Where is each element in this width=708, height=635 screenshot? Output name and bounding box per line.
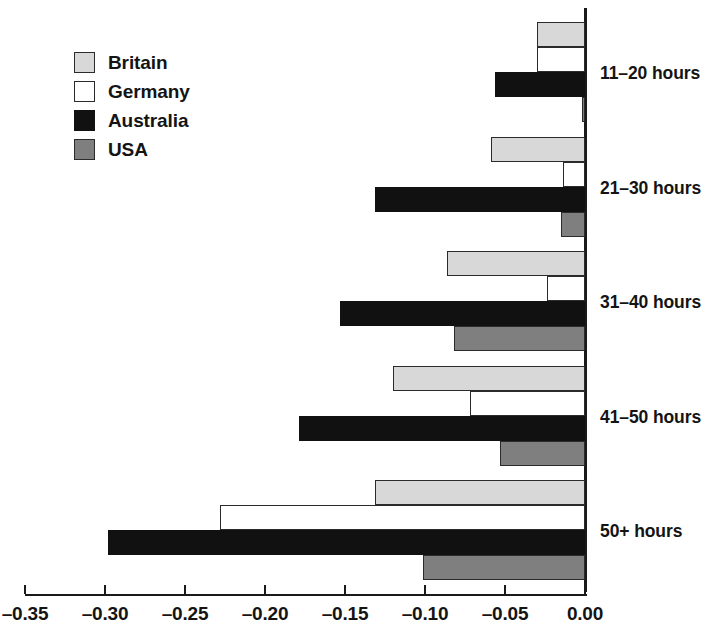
category-label-5: 50+ hours: [600, 521, 682, 542]
category-label-1: 11–20 hours: [600, 63, 700, 84]
bar-germany-1: [537, 47, 585, 72]
bar-australia-2: [375, 187, 585, 212]
x-tick-label-0: –0.35: [2, 603, 49, 625]
x-tick-label-6: –0.05: [482, 603, 529, 625]
bar-usa-5: [423, 555, 585, 580]
legend-swatch-australia-icon: [74, 110, 95, 131]
x-tick-label-1: –0.30: [82, 603, 129, 625]
bar-usa-4: [500, 441, 585, 466]
x-axis-line: [25, 594, 587, 596]
x-tick-4: [344, 585, 346, 594]
category-label-4: 41–50 hours: [600, 407, 701, 428]
bar-usa-2: [561, 212, 585, 237]
bar-australia-4: [299, 416, 585, 441]
x-tick-1: [104, 585, 106, 594]
bar-germany-3: [547, 276, 585, 301]
x-tick-label-4: –0.15: [322, 603, 369, 625]
bar-britain-4: [393, 366, 585, 391]
legend-item-australia: Australia: [74, 106, 190, 135]
chart-legend: BritainGermanyAustraliaUSA: [74, 48, 190, 164]
legend-label-australia: Australia: [108, 110, 188, 132]
bar-germany-2: [563, 162, 585, 187]
legend-item-germany: Germany: [74, 77, 190, 106]
bar-usa-1: [582, 97, 585, 122]
bar-germany-5: [220, 505, 585, 530]
x-tick-label-7: 0.00: [567, 603, 603, 625]
legend-label-britain: Britain: [108, 52, 167, 74]
x-tick-2: [184, 585, 186, 594]
x-tick-7: [584, 585, 586, 594]
legend-item-usa: USA: [74, 135, 190, 164]
x-tick-0: [24, 585, 26, 594]
category-label-2: 21–30 hours: [600, 178, 701, 199]
bar-britain-3: [447, 251, 585, 276]
bar-britain-2: [491, 137, 585, 162]
bar-germany-4: [470, 391, 585, 416]
legend-swatch-germany-icon: [74, 81, 95, 102]
chart-page: –0.35–0.30–0.25–0.20–0.15–0.10–0.050.00 …: [0, 0, 708, 635]
bar-australia-5: [108, 530, 585, 555]
category-label-3: 31–40 hours: [600, 292, 701, 313]
x-tick-3: [264, 585, 266, 594]
bar-britain-5: [375, 480, 585, 505]
x-tick-label-2: –0.25: [162, 603, 209, 625]
x-tick-6: [504, 585, 506, 594]
bar-australia-1: [495, 72, 585, 97]
bar-britain-1: [537, 22, 585, 47]
x-tick-5: [424, 585, 426, 594]
bar-australia-3: [340, 301, 585, 326]
x-tick-label-5: –0.10: [402, 603, 449, 625]
legend-swatch-usa-icon: [74, 139, 95, 160]
legend-label-usa: USA: [108, 139, 148, 161]
x-tick-label-3: –0.20: [242, 603, 289, 625]
legend-item-britain: Britain: [74, 48, 190, 77]
legend-label-germany: Germany: [108, 81, 190, 103]
legend-swatch-britain-icon: [74, 52, 95, 73]
bar-usa-3: [454, 326, 585, 351]
